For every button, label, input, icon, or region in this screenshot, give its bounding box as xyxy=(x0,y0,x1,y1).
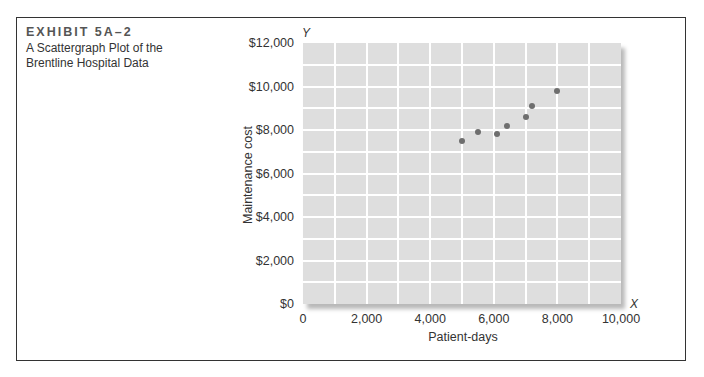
exhibit-title-line2: Brentline Hospital Data xyxy=(26,56,226,71)
y-tick-label: $6,000 xyxy=(256,167,294,181)
plot-area xyxy=(303,43,621,304)
exhibit-label: EXHIBIT 5A–2 xyxy=(26,25,133,39)
x-tick-label: 4,000 xyxy=(415,312,446,326)
data-point xyxy=(494,131,500,137)
y-axis-label: Maintenance cost xyxy=(241,126,255,224)
gridline-horizontal xyxy=(303,64,621,66)
y-tick-label: $0 xyxy=(280,297,294,311)
x-axis-label: Patient-days xyxy=(428,330,497,344)
data-point xyxy=(529,103,535,109)
exhibit-title-line1: A Scattergraph Plot of the xyxy=(26,41,226,56)
gridline-horizontal xyxy=(303,216,621,218)
x-axis-letter: X xyxy=(630,297,638,311)
gridline-horizontal xyxy=(303,194,621,196)
gridline-horizontal xyxy=(303,151,621,153)
data-point xyxy=(475,129,481,135)
y-tick-label: $2,000 xyxy=(256,254,294,268)
y-axis-letter: Y xyxy=(302,26,310,40)
x-tick-label: 0 xyxy=(300,312,307,326)
x-tick-label: 8,000 xyxy=(542,312,573,326)
data-point xyxy=(523,114,529,120)
exhibit-title: A Scattergraph Plot of the Brentline Hos… xyxy=(26,41,226,71)
y-tick-label: $8,000 xyxy=(256,123,294,137)
gridline-horizontal xyxy=(303,173,621,175)
x-tick-label: 2,000 xyxy=(351,312,382,326)
gridline-horizontal xyxy=(303,281,621,283)
y-tick-label: $4,000 xyxy=(256,210,294,224)
y-tick-label: $12,000 xyxy=(249,36,294,50)
y-tick-label: $10,000 xyxy=(249,80,294,94)
gridline-horizontal xyxy=(303,107,621,109)
data-point xyxy=(459,138,465,144)
x-tick-label: 10,000 xyxy=(602,312,640,326)
data-point xyxy=(554,88,560,94)
gridline-horizontal xyxy=(303,129,621,131)
gridline-horizontal xyxy=(303,260,621,262)
gridline-horizontal xyxy=(303,238,621,240)
gridline-horizontal xyxy=(303,86,621,88)
x-tick-label: 6,000 xyxy=(478,312,509,326)
data-point xyxy=(504,123,510,129)
